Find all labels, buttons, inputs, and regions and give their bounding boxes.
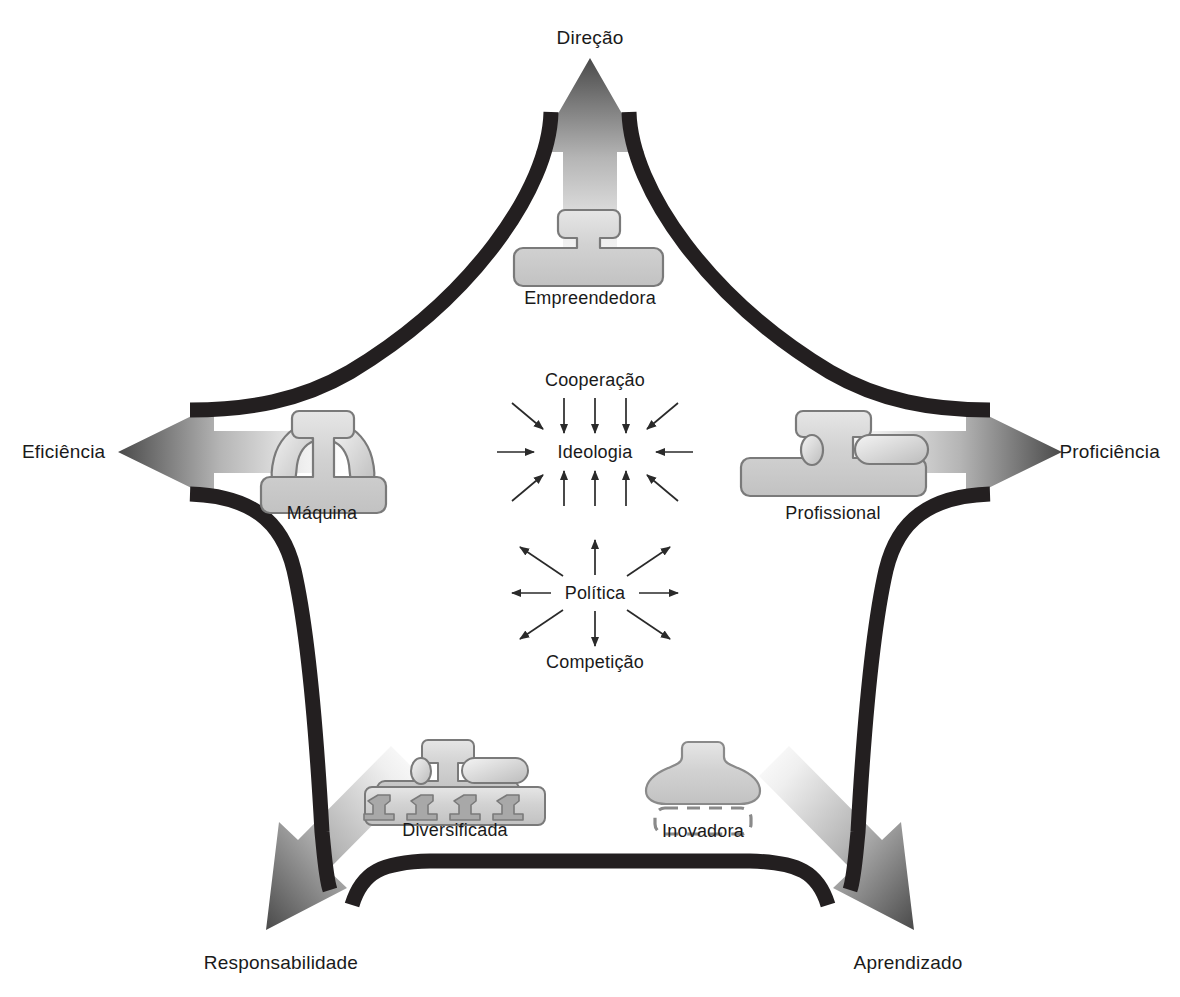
diagram-canvas: Direção Eficiência Proficiência Responsa… (0, 0, 1180, 997)
band-top-left (190, 112, 551, 410)
pentagon-force-diagram (0, 0, 1180, 997)
simple-structure-icon (514, 210, 663, 286)
force-label-cooperacao: Cooperação (545, 370, 645, 391)
force-label-competicao: Competição (546, 652, 644, 673)
force-hub-politica: Política (565, 583, 626, 604)
band-top-right (629, 112, 990, 410)
config-label-inovadora: Inovadora (662, 821, 744, 842)
force-hub-ideologia: Ideologia (558, 442, 633, 463)
config-label-diversificada: Diversificada (402, 820, 508, 841)
arrow-responsabilidade (266, 746, 421, 930)
machine-bureaucracy-icon (261, 411, 386, 513)
corner-label-eficiencia: Eficiência (22, 441, 105, 463)
corner-label-proficiencia: Proficiência (1059, 441, 1160, 463)
band-bottom (352, 861, 828, 905)
corner-label-responsabilidade: Responsabilidade (204, 952, 358, 974)
corner-label-direcao: Direção (557, 27, 624, 49)
config-label-profissional: Profissional (785, 503, 880, 524)
professional-bureaucracy-icon (741, 411, 928, 496)
config-label-empreendedora: Empreendedora (524, 288, 656, 309)
arrow-aprendizado (759, 746, 914, 930)
corner-label-aprendizado: Aprendizado (854, 952, 963, 974)
config-label-maquina: Máquina (287, 503, 357, 524)
